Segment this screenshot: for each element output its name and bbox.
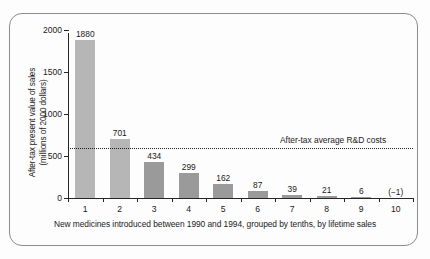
bar[interactable]	[248, 191, 268, 198]
x-tick-label: 5	[221, 204, 226, 214]
x-tick-mark	[344, 198, 345, 202]
x-tick-mark	[137, 198, 138, 202]
rd-cost-reference-label: After-tax average R&D costs	[280, 135, 386, 145]
y-tick-label: 1500	[43, 67, 62, 77]
y-tick-mark	[64, 114, 69, 115]
bar-value-label: 1880	[76, 29, 95, 39]
bar-value-label: 6	[359, 186, 364, 196]
y-tick-mark	[64, 156, 69, 157]
bar-value-label: 39	[288, 184, 297, 194]
x-tick-label: 4	[186, 204, 191, 214]
x-tick-mark	[275, 198, 276, 202]
rd-cost-reference-line	[68, 148, 413, 149]
x-tick-label: 9	[359, 204, 364, 214]
x-tick-label: 7	[290, 204, 295, 214]
y-axis-title-line-1: After-tax present value of sales	[28, 38, 39, 208]
bar-value-label: 162	[216, 173, 230, 183]
bar[interactable]	[75, 40, 95, 198]
bar[interactable]	[213, 184, 233, 198]
plot-area: 0500100015002000 12345678910 18807014342…	[68, 30, 413, 198]
x-tick-mark	[103, 198, 104, 202]
y-tick-label: 500	[48, 151, 62, 161]
x-tick-label: 1	[83, 204, 88, 214]
y-axis-line	[68, 33, 69, 198]
bar-value-label: 701	[113, 128, 127, 138]
bar[interactable]	[179, 173, 199, 198]
x-tick-mark	[172, 198, 173, 202]
x-tick-mark	[241, 198, 242, 202]
y-axis-title: After-tax present value of sales (millio…	[28, 38, 49, 208]
bar[interactable]	[144, 162, 164, 198]
bar-value-label: 21	[322, 185, 331, 195]
bar-value-label: 434	[147, 151, 161, 161]
x-tick-mark	[379, 198, 380, 202]
bar[interactable]	[351, 197, 371, 198]
bar[interactable]	[317, 196, 337, 198]
bar[interactable]	[282, 195, 302, 198]
x-tick-mark	[68, 198, 69, 202]
y-tick-mark	[64, 72, 69, 73]
x-tick-label: 2	[117, 204, 122, 214]
x-tick-label: 3	[152, 204, 157, 214]
y-tick-mark	[64, 30, 69, 31]
y-tick-label: 2000	[43, 25, 62, 35]
y-axis-title-line-2: (millions of 2000 dollars)	[38, 38, 49, 208]
x-tick-mark	[310, 198, 311, 202]
x-tick-label: 8	[324, 204, 329, 214]
bar-value-label: (−1)	[388, 187, 403, 197]
y-tick-label: 1000	[43, 109, 62, 119]
y-tick-label: 0	[57, 193, 62, 203]
x-tick-mark	[413, 198, 414, 202]
chart-figure: After-tax present value of sales (millio…	[0, 0, 430, 259]
x-tick-mark	[206, 198, 207, 202]
x-axis-title: New medicines introduced between 1990 an…	[0, 219, 430, 229]
bar-value-label: 87	[253, 180, 262, 190]
bar-value-label: 299	[182, 162, 196, 172]
x-tick-label: 6	[255, 204, 260, 214]
x-tick-label: 10	[391, 204, 401, 214]
